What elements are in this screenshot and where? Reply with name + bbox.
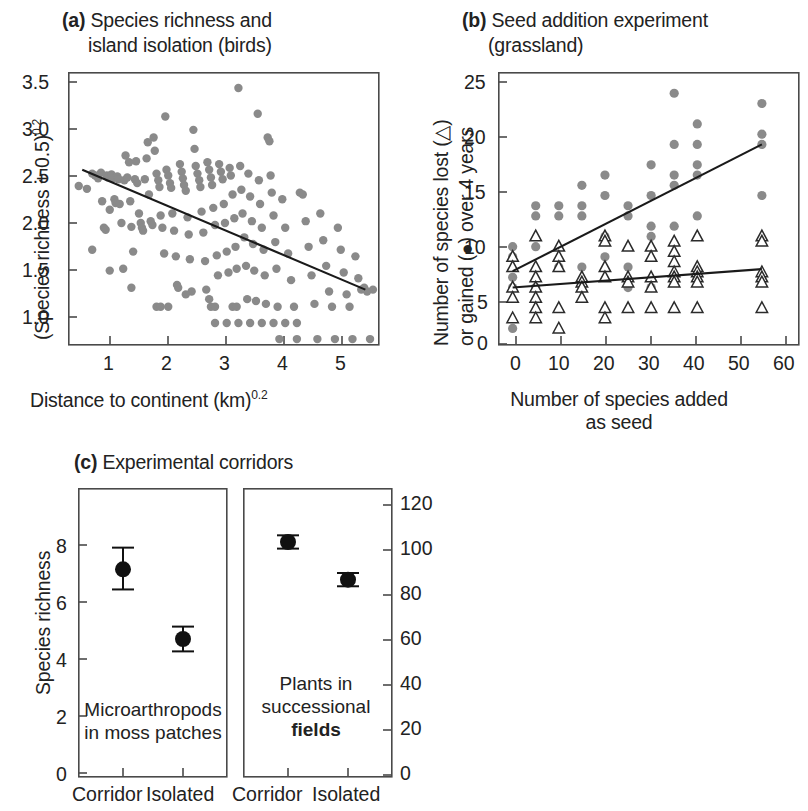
panel-b-ylabel-text1: Number of species lost (△) [430, 119, 452, 346]
panel-b-title: (b) Seed addition experiment (grassland) [462, 8, 807, 58]
panel-c-left-xtick-1: Isolated [146, 783, 214, 806]
panel-a-title-line2: island isolation (birds) [88, 33, 272, 58]
panel-c-title-text: Experimental corridors [102, 451, 293, 473]
panel-a-xtick-1: 2 [161, 352, 172, 375]
panel-b-ytick-4: 5 [477, 291, 488, 314]
panel-c-left-ytick-2: 4 [56, 649, 67, 672]
panel-a-ytick-1: 3.0 [22, 118, 49, 141]
panel-a-xlabel: Distance to continent (km)0.2 [30, 388, 268, 412]
panel-c-right-ytick-1: 100 [400, 537, 433, 560]
panel-a-ytick-3: 2.0 [22, 212, 49, 235]
panel-c-right-xtick-0: Corridor [232, 783, 302, 806]
panel-c-left-ytick-1: 6 [56, 592, 67, 615]
panel-a-title-line1: Species richness and [90, 9, 271, 31]
panel-c-left-ytick-4: 0 [56, 763, 67, 786]
panel-a-ytick-0: 3.5 [22, 71, 49, 94]
panel-c-ylabel-text: Species richness [32, 551, 54, 695]
panel-a-plot [68, 72, 398, 362]
panel-c-right-caption-line2: successional [262, 696, 371, 717]
panel-c-left-caption: Microarthropods in moss patches [80, 698, 226, 744]
panel-c-right-caption-line1: Plants in [280, 673, 353, 694]
panel-a-xtick-2: 3 [219, 352, 230, 375]
panel-a: (a) Species richness and island isolatio… [0, 0, 404, 440]
panel-b-xtick-5: 50 [728, 352, 750, 375]
panel-b-plot [498, 72, 808, 362]
panel-b-tag: (b) [462, 9, 486, 31]
panel-b-ytick-2: 15 [464, 181, 486, 204]
panel-a-title: (a) Species richness and island isolatio… [62, 8, 392, 58]
panel-c-tag: (c) [74, 451, 97, 473]
panel-b-ytick-0: 25 [464, 71, 486, 94]
panel-c-ylabel: Species richness [32, 551, 55, 695]
panel-a-tag: (a) [62, 9, 85, 31]
panel-a-xlabel-text: Distance to continent (km) [30, 389, 251, 411]
panel-c-right-ytick-5: 20 [400, 717, 422, 740]
panel-b-xtick-1: 10 [548, 352, 570, 375]
panel-c-right-caption: Plants in successional fields [242, 672, 390, 741]
panel-a-ytick-4: 1.5 [22, 259, 49, 282]
panel-b-title-line1: Seed addition experiment [492, 9, 708, 31]
panel-c-right-ytick-6: 0 [400, 762, 411, 785]
panel-b-xtick-6: 60 [773, 352, 795, 375]
panel-a-xtick-4: 5 [335, 352, 346, 375]
panel-c-left-ytick-0: 8 [56, 535, 67, 558]
panel-b-xlabel-line2: as seed [586, 411, 653, 433]
panel-c-right-ytick-2: 80 [400, 582, 422, 605]
panel-c-left-caption-line1: Microarthropods [84, 699, 221, 720]
panel-c-left-ytick-3: 2 [56, 706, 67, 729]
panel-b-xlabel-line1: Number of species added [510, 388, 728, 410]
panel-c-left-caption-line2: in moss patches [84, 722, 221, 743]
panel-b-xtick-2: 20 [593, 352, 615, 375]
panel-b-xtick-3: 30 [638, 352, 660, 375]
panel-a-ytick-2: 2.5 [22, 165, 49, 188]
panel-c-title: (c) Experimental corridors [74, 450, 293, 475]
panel-c-right-caption-line3: fields [291, 719, 341, 740]
panel-b-ytick-1: 20 [464, 126, 486, 149]
panel-c: (c) Experimental corridors Species richn… [0, 440, 500, 811]
panel-b: (b) Seed addition experiment (grassland)… [404, 0, 808, 440]
panel-a-xlabel-exponent: 0.2 [251, 388, 267, 402]
panel-a-xtick-0: 1 [103, 352, 114, 375]
panel-b-xtick-4: 40 [683, 352, 705, 375]
panel-c-right-xtick-1: Isolated [312, 783, 380, 806]
panel-b-title-line2: (grassland) [488, 33, 583, 58]
panel-b-ytick-5: 0 [477, 332, 488, 355]
panel-c-right-ytick-0: 120 [400, 492, 433, 515]
panel-b-xtick-0: 0 [510, 352, 521, 375]
panel-b-ytick-3: 10 [464, 236, 486, 259]
panel-c-right-ytick-4: 40 [400, 672, 422, 695]
panel-a-xtick-3: 4 [277, 352, 288, 375]
panel-c-left-xtick-0: Corridor [72, 783, 142, 806]
panel-c-right-ytick-3: 60 [400, 627, 422, 650]
panel-b-xlabel: Number of species added as seed [489, 388, 749, 434]
panel-a-ytick-5: 1.0 [22, 306, 49, 329]
panel-b-ylabel-line1: Number of species lost (△) [430, 119, 453, 346]
